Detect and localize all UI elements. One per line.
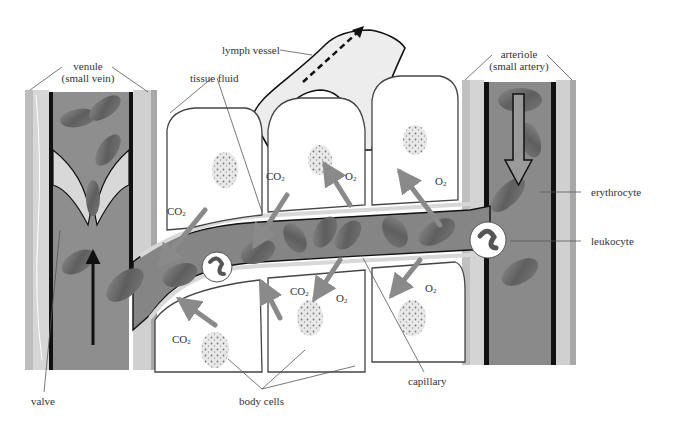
leukocyte-cell [470, 222, 506, 258]
label-tissue-fluid: tissue fluid [190, 72, 239, 84]
label-o2: O2 [336, 292, 347, 307]
label-arteriole-name: arteriole [483, 48, 555, 60]
label-capillary: capillary [408, 375, 446, 387]
label-leukocyte: leukocyte [591, 235, 634, 247]
label-co2: CO2 [167, 205, 186, 220]
label-venule-name: venule [58, 60, 118, 72]
label-venule-desc: (small vein) [58, 72, 118, 84]
label-lymph-vessel: lymph vessel [222, 44, 280, 56]
leukocyte-cell [202, 252, 232, 282]
label-arteriole: arteriole (small artery) [483, 48, 555, 72]
label-o2: O2 [435, 175, 446, 190]
label-o2: O2 [345, 170, 356, 185]
capillary-diagram: venule (small vein) lymph vessel tissue … [0, 0, 677, 428]
label-body-cells: body cells [239, 395, 284, 407]
label-o2: O2 [425, 282, 436, 297]
label-erythrocyte: erythrocyte [591, 186, 641, 198]
label-co2: CO2 [172, 333, 191, 348]
label-valve: valve [31, 395, 55, 407]
label-co2: CO2 [290, 285, 309, 300]
label-venule: venule (small vein) [58, 60, 118, 84]
label-arteriole-desc: (small artery) [483, 60, 555, 72]
venule [25, 90, 157, 370]
label-co2: CO2 [266, 170, 285, 185]
